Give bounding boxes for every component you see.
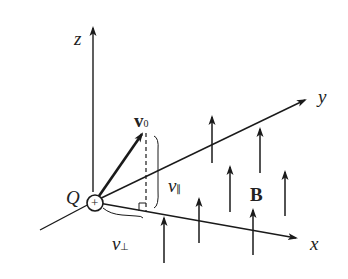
velocity-label: v0 [134, 111, 149, 130]
magnetic-field-diagram: + z y x Q v0 v∥ v⊥ B [0, 0, 348, 279]
field-label: B [250, 185, 263, 204]
charge-label: Q [66, 188, 80, 207]
y-axis-label: y [318, 87, 326, 106]
charge-sign: + [91, 196, 98, 209]
y-axis [93, 100, 305, 202]
v-perp-subscript: ⊥ [120, 241, 129, 252]
diagram-canvas [0, 0, 348, 279]
velocity-subscript: 0 [144, 118, 149, 129]
velocity-vector [99, 134, 142, 196]
x-axis-label: x [310, 234, 318, 253]
v-parallel-subscript: ∥ [176, 183, 181, 194]
x-axis [93, 202, 296, 238]
v-perp-label: v⊥ [112, 234, 129, 253]
z-axis-label: z [74, 29, 81, 48]
velocity-symbol: v [134, 110, 144, 131]
v-parallel-label: v∥ [168, 176, 181, 195]
